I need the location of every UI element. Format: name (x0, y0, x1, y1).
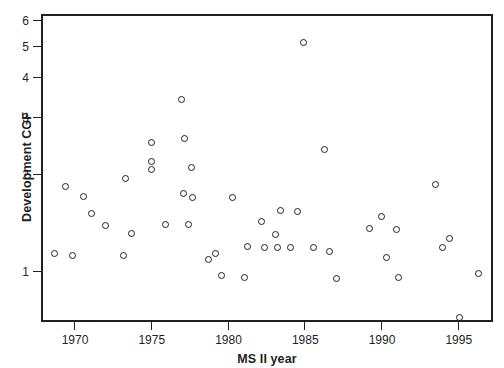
x-axis-tick (458, 322, 459, 330)
data-point (88, 210, 95, 217)
data-point (162, 221, 169, 228)
x-axis-tick (381, 322, 382, 330)
data-point (241, 274, 248, 281)
data-point (274, 244, 281, 251)
x-axis-tick-label: 1990 (359, 334, 405, 346)
data-point (446, 235, 453, 242)
data-point (294, 208, 301, 215)
data-point (310, 244, 317, 251)
data-point (188, 164, 195, 171)
data-point (393, 226, 400, 233)
plot-area (41, 14, 493, 322)
data-point (287, 244, 294, 251)
y-axis-tick (33, 174, 41, 175)
data-point (120, 252, 127, 259)
x-axis-tick (74, 322, 75, 330)
data-point (102, 222, 109, 229)
y-axis-title: Development CGF (20, 92, 34, 242)
data-point (475, 270, 482, 277)
data-point (69, 252, 76, 259)
data-point (212, 250, 219, 257)
data-point (218, 272, 225, 279)
data-point (128, 230, 135, 237)
x-axis-tick-label: 1980 (206, 334, 252, 346)
data-point (300, 39, 307, 46)
data-point (80, 193, 87, 200)
data-point (272, 231, 279, 238)
x-axis-tick-label: 1995 (436, 334, 482, 346)
data-point (181, 135, 188, 142)
data-point (261, 244, 268, 251)
data-point (229, 194, 236, 201)
data-point (122, 175, 129, 182)
data-point (148, 166, 155, 173)
x-axis-tick-label: 1975 (129, 334, 175, 346)
data-point (321, 146, 328, 153)
data-point (395, 274, 402, 281)
data-point (378, 213, 385, 220)
scatter-chart-figure: 123456197019751980198519901995 Developme… (0, 0, 504, 368)
y-axis-tick (33, 46, 41, 47)
data-point (432, 181, 439, 188)
y-axis-tick-label: 4 (7, 72, 29, 84)
x-axis-tick-label: 1970 (52, 334, 98, 346)
y-axis-tick (33, 271, 41, 272)
data-point (148, 158, 155, 165)
data-point (333, 275, 340, 282)
y-axis-tick-label: 5 (7, 41, 29, 53)
y-axis-tick (33, 77, 41, 78)
y-axis-tick-label: 6 (7, 15, 29, 27)
y-axis-tick (33, 20, 41, 21)
data-point (439, 244, 446, 251)
data-point (456, 314, 463, 321)
data-point (62, 183, 69, 190)
x-axis-tick (304, 322, 305, 330)
data-point (383, 254, 390, 261)
data-point (244, 243, 251, 250)
y-axis-tick (33, 117, 41, 118)
x-axis-tick (151, 322, 152, 330)
data-point (205, 256, 212, 263)
data-point (178, 96, 185, 103)
data-point (277, 207, 284, 214)
data-point (51, 250, 58, 257)
data-point (180, 190, 187, 197)
data-point (258, 218, 265, 225)
y-axis-tick-label: 1 (7, 266, 29, 278)
data-point (366, 225, 373, 232)
x-axis-tick-label: 1985 (282, 334, 328, 346)
data-point (185, 221, 192, 228)
data-point (326, 248, 333, 255)
x-axis-title: MS II year (41, 352, 493, 366)
data-point (189, 194, 196, 201)
data-points-layer (43, 16, 491, 320)
x-axis-tick (228, 322, 229, 330)
data-point (148, 139, 155, 146)
